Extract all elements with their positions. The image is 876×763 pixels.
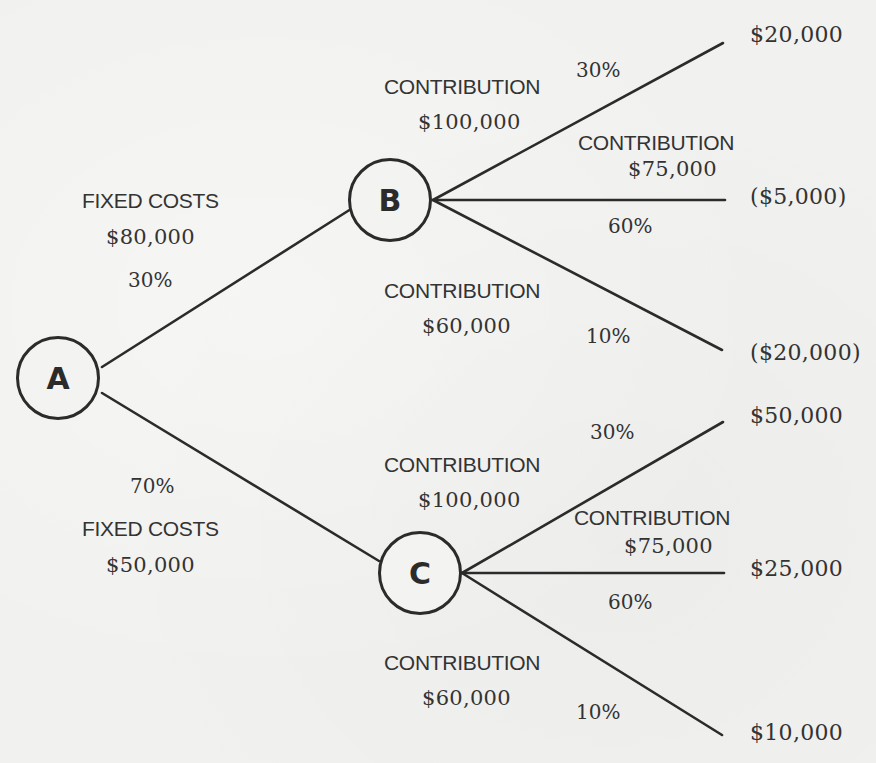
branch-c-low-title: CONTRIBUTION	[384, 652, 540, 673]
branch-a-b-probability: 30%	[128, 270, 172, 290]
branch-a-b-title: FIXED COSTS	[82, 190, 219, 211]
branch-c-mid-probability: 60%	[608, 592, 652, 612]
branch-b-high-probability: 30%	[576, 60, 620, 80]
branch-b-mid-title: CONTRIBUTION	[578, 132, 734, 153]
branch-c-mid-outcome: $25,000	[750, 558, 843, 580]
branch-b-high-outcome: $20,000	[750, 24, 843, 46]
branch-b-high-amount: $100,000	[418, 112, 521, 133]
node-b: B	[348, 158, 432, 242]
branch-b-mid-amount: $75,000	[628, 159, 717, 180]
node-a: A	[16, 336, 100, 420]
decision-tree-canvas: A B C FIXED COSTS $80,000 30% 70% FIXED …	[0, 0, 876, 763]
branch-b-low-outcome: ($20,000)	[750, 342, 861, 364]
branch-a-c-probability: 70%	[130, 476, 174, 496]
branch-c-low-probability: 10%	[576, 702, 620, 722]
branch-a-c-amount: $50,000	[106, 555, 195, 576]
branch-c-high-outcome: $50,000	[750, 405, 843, 427]
branch-a-c-title: FIXED COSTS	[82, 518, 219, 539]
node-c: C	[378, 531, 462, 615]
branch-b-low-amount: $60,000	[422, 316, 511, 337]
node-c-label: C	[409, 556, 431, 591]
branch-c-mid-amount: $75,000	[624, 536, 713, 557]
branch-b-high-title: CONTRIBUTION	[384, 76, 540, 97]
branch-b-mid-probability: 60%	[608, 216, 652, 236]
branch-c-low-outcome: $10,000	[750, 722, 843, 744]
branch-c-high-probability: 30%	[590, 422, 634, 442]
branch-a-b-amount: $80,000	[106, 227, 195, 248]
node-a-label: A	[46, 361, 69, 396]
node-b-label: B	[379, 183, 402, 218]
branch-c-high-title: CONTRIBUTION	[384, 454, 540, 475]
branch-b-low-title: CONTRIBUTION	[384, 280, 540, 301]
branch-c-low-amount: $60,000	[422, 688, 511, 709]
branch-c-high-amount: $100,000	[418, 490, 521, 511]
branch-c-mid-title: CONTRIBUTION	[574, 507, 730, 528]
branch-b-low-probability: 10%	[586, 326, 630, 346]
branch-b-mid-outcome: ($5,000)	[750, 186, 847, 208]
